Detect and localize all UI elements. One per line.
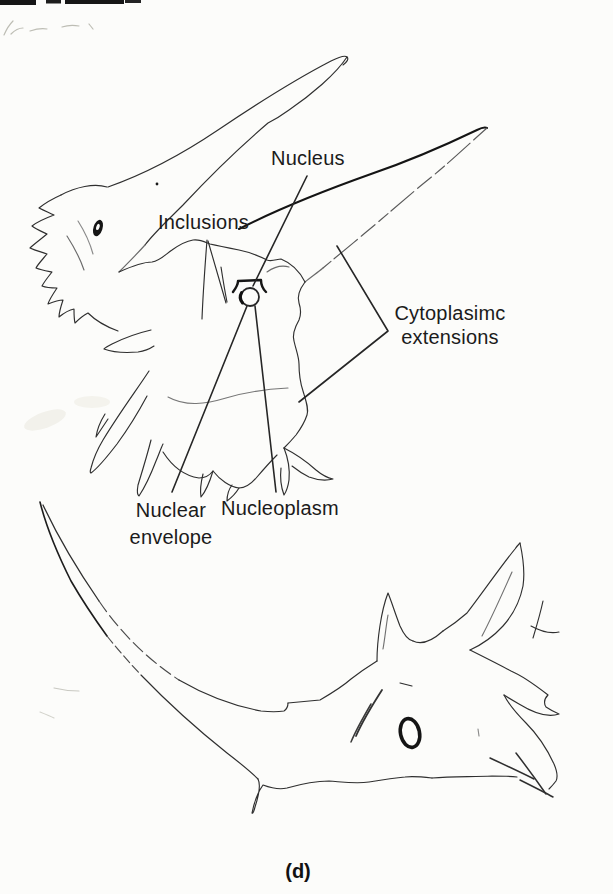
outline-stroke: [40, 712, 54, 718]
pencil-marks: [4, 21, 93, 35]
leader-nucleoplasm: [255, 306, 276, 492]
scan-artifacts: [0, 0, 158, 435]
outline-stroke: [107, 636, 141, 675]
outline-stroke: [119, 240, 305, 282]
outline-stroke: [478, 729, 479, 736]
ink-speck: [156, 183, 159, 186]
outline-stroke: [533, 601, 543, 638]
outline-stroke: [267, 266, 289, 272]
outline-stroke: [179, 680, 288, 712]
scan-bar-segment: [65, 0, 124, 4]
bottom-cell-nucleus-oval: [398, 717, 423, 749]
outline-stroke: [43, 505, 99, 601]
cell-line-art: [0, 0, 613, 894]
leader-nucleus: [253, 176, 307, 286]
tail-slash: [516, 753, 546, 794]
outline-stroke: [96, 414, 108, 437]
inclusion-slivers: [202, 240, 227, 319]
label-nucleoplasm: Nucleoplasm: [221, 497, 339, 520]
inclusion-stroke: [202, 240, 207, 319]
scan-smudge: [74, 396, 110, 408]
outline-stroke: [281, 448, 290, 495]
label-nuclear-envelope-line2: envelope: [124, 524, 218, 551]
bottom-cell-drawing: [40, 502, 559, 813]
leader-cytoplasmic-extensions: [299, 246, 388, 402]
scan-smudge: [22, 405, 69, 435]
label-inclusions: Inclusions: [158, 211, 249, 234]
label-cytoplasmic-extensions: Cytoplasimc extensions: [384, 301, 516, 349]
figure-canvas: Nucleus Inclusions Cytoplasimc extension…: [0, 0, 613, 894]
outline-stroke: [284, 282, 308, 448]
scan-bar-segment: [0, 0, 36, 5]
label-nucleus: Nucleus: [271, 147, 345, 170]
scan-bar-segment: [46, 0, 61, 4]
outline-stroke: [252, 777, 432, 814]
hatch-mark: [400, 683, 412, 686]
outline-stroke: [482, 572, 512, 636]
outline-stroke: [383, 615, 388, 649]
outline-stroke: [40, 502, 107, 636]
horn-spike: [377, 593, 413, 661]
outline-stroke: [90, 371, 149, 473]
nucleus-circle-heavy-arc: [240, 293, 242, 304]
large-spike: [470, 543, 524, 650]
inclusion-stroke: [208, 241, 226, 303]
label-nuclear-envelope: Nuclear envelope: [124, 497, 218, 551]
label-nuclear-envelope-line1: Nuclear: [124, 497, 218, 524]
outline-stroke: [54, 688, 79, 691]
nucleus-detail: [233, 280, 266, 306]
outline-stroke: [413, 631, 443, 643]
head-spikes: [30, 195, 118, 331]
large-spike: [443, 543, 520, 631]
outline-stroke: [119, 245, 145, 272]
hatch-mark: [356, 690, 382, 736]
notched-spike: [470, 650, 559, 715]
outline-stroke: [288, 661, 377, 703]
label-cytoplasmic-extensions-line1: Cytoplasimc: [384, 301, 516, 325]
outline-stroke: [323, 128, 487, 268]
outline-stroke: [305, 268, 323, 282]
outline-stroke: [137, 440, 163, 496]
top-cell-body: [90, 240, 333, 501]
outline-stroke: [168, 388, 288, 404]
label-cytoplasmic-extensions-line2: extensions: [384, 325, 516, 349]
tail-slash: [520, 780, 553, 797]
scan-bar-segment: [125, 0, 141, 3]
outline-stroke: [104, 330, 154, 352]
outline-stroke: [284, 448, 333, 480]
outline-stroke: [432, 776, 517, 778]
top-cell-head: [30, 185, 118, 331]
outline-stroke: [239, 128, 487, 229]
top-cell-drawing: [30, 56, 487, 501]
outline-stroke: [61, 185, 107, 195]
nucleus-bracket: [233, 280, 266, 292]
outline-stroke: [78, 221, 93, 254]
leader-nuclear-envelope: [172, 306, 247, 492]
hatch-mark: [351, 704, 371, 742]
outline-stroke: [67, 236, 84, 270]
figure-caption: (d): [262, 860, 334, 883]
outline-stroke: [201, 471, 213, 497]
